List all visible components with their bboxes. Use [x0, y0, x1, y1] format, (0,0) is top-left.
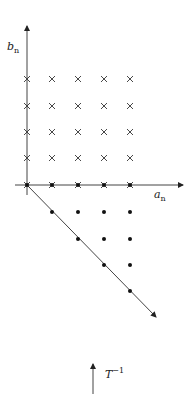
cross-marker	[101, 129, 107, 135]
dot-marker	[102, 183, 106, 187]
cross-marker	[127, 155, 133, 161]
dot-marker	[76, 210, 80, 214]
cross-marker	[49, 103, 55, 109]
cross-marker	[49, 155, 55, 161]
dot-marker	[128, 263, 132, 267]
dot-marker	[50, 183, 54, 187]
cross-marker	[75, 103, 81, 109]
cross-marker	[127, 103, 133, 109]
cross-marker	[49, 76, 55, 82]
a-n-label: an	[154, 188, 166, 203]
dot-marker	[128, 237, 132, 241]
lattice-diagram: bn an T−1	[0, 0, 194, 417]
dot-marker	[102, 263, 106, 267]
dot-marker	[102, 210, 106, 214]
diagram-canvas	[0, 0, 194, 417]
cross-marker	[127, 76, 133, 82]
cross-marker	[101, 155, 107, 161]
dot-marker	[128, 289, 132, 293]
cross-marker	[101, 103, 107, 109]
dot-marker	[76, 183, 80, 187]
dot-marker	[102, 237, 106, 241]
dot-marker	[76, 237, 80, 241]
dot-marker	[50, 210, 54, 214]
dot-marker	[128, 210, 132, 214]
cross-marker	[75, 129, 81, 135]
cross-marker	[75, 155, 81, 161]
diagonal-axis	[27, 185, 156, 317]
dot-marker	[128, 183, 132, 187]
cross-marker	[49, 129, 55, 135]
cross-marker	[101, 76, 107, 82]
cross-markers	[24, 76, 133, 188]
b-n-label: bn	[7, 40, 19, 55]
t-inverse-label: T−1	[105, 366, 124, 381]
cross-marker	[127, 129, 133, 135]
dot-marker	[25, 183, 29, 187]
cross-marker	[75, 76, 81, 82]
